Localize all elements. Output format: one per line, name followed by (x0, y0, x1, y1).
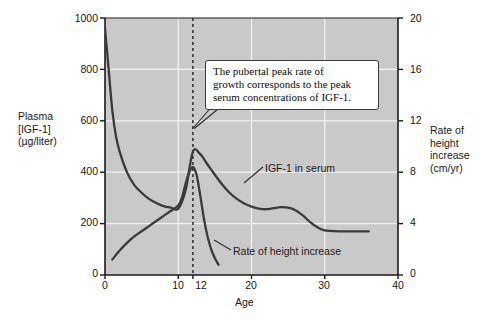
callout-line-1: growth corresponds to the peak (213, 78, 372, 91)
chart-figure: Plasma [IGF-1] (µg/liter) Rate of height… (0, 0, 489, 323)
plot-area (0, 0, 489, 323)
series-label-igf1: IGF-1 in serum (265, 162, 335, 174)
pubertal-peak-callout: The pubertal peak rate of growth corresp… (205, 60, 379, 110)
callout-line-2: serum concentrations of IGF-1. (213, 91, 372, 104)
series-label-rate: Rate of height increase (233, 245, 341, 257)
callout-line-0: The pubertal peak rate of (213, 65, 372, 78)
